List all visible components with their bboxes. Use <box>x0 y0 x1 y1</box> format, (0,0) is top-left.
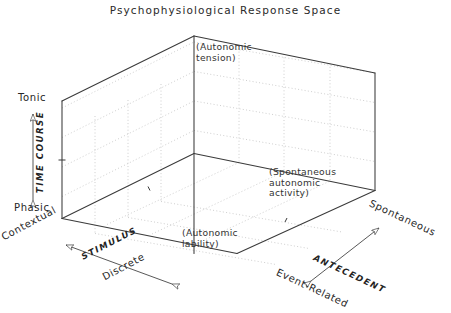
edge-floor-front-right <box>237 191 375 254</box>
axis-label-tonic: Tonic <box>18 92 46 103</box>
region-label-autonomic-tension: (Autonomic tension) <box>196 42 252 63</box>
cube-frame <box>62 36 375 254</box>
axis-name-time-course: TIME COURSE <box>35 107 45 197</box>
region-label-spontaneous-autonomic-activity: (Spontaneous autonomic activity) <box>269 167 336 199</box>
axis-ticks <box>59 160 288 222</box>
edge-top-back-left <box>62 36 194 101</box>
page-title: Psychophysiological Response Space <box>0 4 451 16</box>
grid-back-left-wall <box>62 42 194 234</box>
region-label-autonomic-lability: (Autonomic lability) <box>182 228 238 249</box>
